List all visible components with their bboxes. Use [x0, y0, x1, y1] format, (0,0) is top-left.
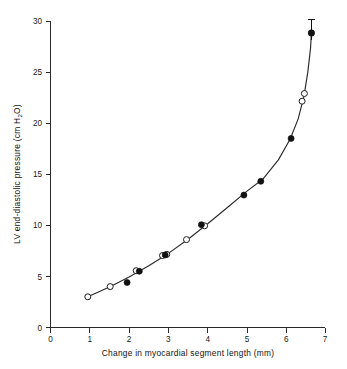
- data-point-open: [85, 294, 91, 300]
- scatter-plot: 0 5 10 15 20 25 30 0 1 2 3 4 5 6 7 Chang…: [0, 0, 347, 369]
- y-tick-label-15: 15: [33, 170, 43, 179]
- y-tick-label-30: 30: [33, 17, 43, 26]
- svg-text:LV end-diastolic pressure (cm: LV end-diastolic pressure (cm H2O): [12, 104, 23, 244]
- y-tick-label-10: 10: [33, 221, 43, 230]
- y-axis-title-tail: O): [12, 104, 22, 114]
- data-point-open: [299, 98, 305, 104]
- y-axis-title: LV end-diastolic pressure (cm H2O): [12, 104, 23, 244]
- figure-container: 0 5 10 15 20 25 30 0 1 2 3 4 5 6 7 Chang…: [0, 0, 347, 369]
- y-axis-ticks: [46, 21, 51, 328]
- x-tick-label-1: 1: [88, 335, 93, 344]
- x-tick-label-6: 6: [284, 335, 289, 344]
- data-point-filled: [162, 252, 168, 258]
- x-tick-label-2: 2: [127, 335, 132, 344]
- open-circle-series: [85, 91, 308, 300]
- y-tick-label-20: 20: [33, 119, 43, 128]
- x-tick-label-7: 7: [323, 335, 328, 344]
- data-point-open: [107, 284, 113, 290]
- figure-caption: [0, 359, 347, 369]
- x-tick-label-4: 4: [205, 335, 210, 344]
- y-tick-label-0: 0: [37, 324, 42, 333]
- x-axis-title: Change in myocardial segment length (mm): [102, 348, 274, 358]
- x-tick-label-5: 5: [245, 335, 250, 344]
- data-point-filled: [308, 30, 314, 36]
- filled-circle-series: [124, 30, 314, 286]
- y-axis-title-main: LV end-diastolic pressure (cm H: [12, 118, 22, 244]
- y-tick-label-25: 25: [33, 68, 43, 77]
- y-tick-label-5: 5: [37, 273, 42, 282]
- data-point-open: [184, 237, 190, 243]
- data-point-filled: [198, 222, 204, 228]
- pressure-length-curve: [88, 32, 312, 297]
- data-point-filled: [241, 192, 247, 198]
- data-point-filled: [124, 280, 130, 286]
- x-tick-label-0: 0: [48, 335, 53, 344]
- x-axis-ticks: [51, 328, 326, 333]
- x-tick-label-3: 3: [166, 335, 171, 344]
- data-point-open: [301, 91, 307, 97]
- data-point-filled: [136, 268, 142, 274]
- data-point-filled: [288, 135, 294, 141]
- data-point-filled: [258, 178, 264, 184]
